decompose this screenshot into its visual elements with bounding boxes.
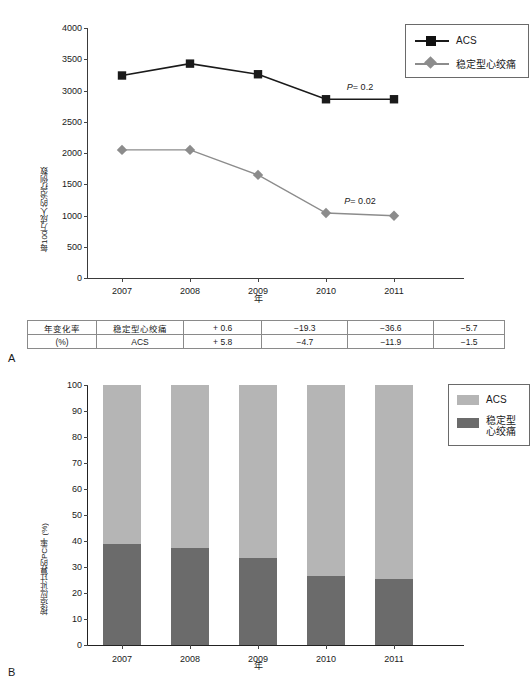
panel-b-y-tick-mark — [84, 411, 88, 412]
panel-a-point-diamond — [117, 145, 127, 155]
panel-b-x-axis-line — [87, 645, 464, 646]
table-row: (%)ACS+ 5.8−4.7−11.9−1.5 — [28, 335, 505, 349]
panel-b-y-tick-mark — [84, 567, 88, 568]
table-value-cell: + 5.8 — [184, 335, 262, 349]
panel-b-y-tick-label: 20 — [44, 588, 82, 598]
panel-b-y-tick-label: 50 — [44, 510, 82, 520]
legend-label-acs-b: ACS — [486, 394, 507, 405]
panel-b-y-tick-label: 40 — [44, 536, 82, 546]
table-row: 年变化率稳定型心绞痛+ 0.6−19.3−36.6−5.7 — [28, 321, 505, 335]
panel-b-y-tick-mark — [84, 515, 88, 516]
legend-line-angina — [415, 63, 449, 65]
table-value-cell: −5.7 — [434, 321, 505, 335]
panel-a-point-square — [186, 59, 194, 67]
panel-b-x-tick-label: 2010 — [316, 654, 336, 664]
panel-b-y-tick-mark — [84, 463, 88, 464]
pvalue-text: = 0.2 — [353, 82, 373, 92]
panel-b-y-tick-mark — [84, 593, 88, 594]
annual-change-table: 年变化率稳定型心绞痛+ 0.6−19.3−36.6−5.7(%)ACS+ 5.8… — [27, 320, 505, 349]
panel-a-x-axis-label: 年 — [254, 292, 263, 305]
panel-a-pvalue-angina: P= 0.02 — [344, 196, 375, 206]
panel-b-y-tick-label: 0 — [44, 640, 82, 650]
panel-b-y-tick-mark — [84, 385, 88, 386]
legend-swatch-angina — [457, 418, 479, 428]
panel-a-point-diamond — [253, 170, 263, 180]
panel-b-x-tick-mark — [122, 645, 123, 649]
panel-b-y-tick-mark — [84, 489, 88, 490]
panel-a-legend: ACS 稳定型心绞痛 — [405, 24, 529, 78]
panel-b-x-tick-label: 2008 — [180, 654, 200, 664]
pvalue-text: = 0.02 — [350, 196, 375, 206]
panel-a-point-square — [322, 95, 330, 103]
panel-a-pvalue-acs: P= 0.2 — [347, 82, 373, 92]
legend-label-angina-b-line2: 心绞痛 — [486, 427, 516, 438]
panel-b-y-tick-label: 30 — [44, 562, 82, 572]
panel-b-y-tick-mark — [84, 619, 88, 620]
panel-b-y-tick-mark — [84, 645, 88, 646]
legend-swatch-acs — [457, 395, 479, 405]
table-category-cell: ACS — [97, 335, 184, 349]
panel-b-y-tick-label: 70 — [44, 458, 82, 468]
table-value-cell: −11.9 — [348, 335, 434, 349]
panel-b-x-tick-label: 2011 — [384, 654, 403, 664]
table-row-header: (%) — [28, 335, 97, 349]
panel-b-x-tick-mark — [190, 645, 191, 649]
table-value-cell: + 0.6 — [184, 321, 262, 335]
table-row-header: 年变化率 — [28, 321, 97, 335]
legend-label-angina: 稳定型心绞痛 — [456, 56, 516, 71]
panel-b-y-tick-label: 10 — [44, 614, 82, 624]
panel-b-y-tick-label: 80 — [44, 432, 82, 442]
panel-b-y-tick-label: 60 — [44, 484, 82, 494]
table-value-cell: −1.5 — [434, 335, 505, 349]
panel-a-point-square — [390, 95, 398, 103]
panel-b-x-tick-mark — [258, 645, 259, 649]
panel-a-line-chart: 每100万成人的治疗例数 050010001500200025003000350… — [0, 0, 532, 312]
panel-b-y-tick-label: 90 — [44, 406, 82, 416]
panel-a-point-diamond — [185, 145, 195, 155]
panel-b-x-tick-mark — [326, 645, 327, 649]
panel-label-a: A — [8, 352, 15, 364]
panel-a-point-square — [254, 70, 262, 78]
panel-a-point-diamond — [321, 208, 331, 218]
table-value-cell: −19.3 — [262, 321, 348, 335]
square-marker-icon — [426, 36, 436, 46]
panel-b-y-tick-label: 100 — [44, 380, 82, 390]
panel-b-legend: ACS 稳定型 心绞痛 — [448, 384, 530, 446]
panel-b-y-tick-mark — [84, 541, 88, 542]
panel-a-point-square — [118, 71, 126, 79]
panel-b-x-axis-label: 年 — [254, 659, 263, 672]
legend-label-angina-b-line1: 稳定型 — [486, 416, 516, 427]
panel-a-point-diamond — [389, 211, 399, 221]
legend-line-acs — [415, 40, 449, 42]
table-value-cell: −36.6 — [348, 321, 434, 335]
panel-b-y-tick-mark — [84, 437, 88, 438]
legend-label-acs: ACS — [456, 35, 477, 46]
diamond-marker-icon — [424, 56, 437, 69]
panel-b-x-tick-mark — [394, 645, 395, 649]
table-category-cell: 稳定型心绞痛 — [97, 321, 184, 335]
table-value-cell: −4.7 — [262, 335, 348, 349]
panel-b-x-tick-label: 2007 — [112, 654, 132, 664]
